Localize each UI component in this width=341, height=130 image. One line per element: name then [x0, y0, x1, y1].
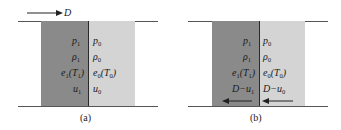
density-0-label: ρ0	[263, 52, 271, 65]
detonation-direction-arrow-icon	[27, 9, 63, 17]
channel-bottom-wall	[188, 106, 328, 107]
density-1-label: ρ1	[72, 52, 80, 65]
unburned-flow-arrow-icon	[262, 97, 293, 105]
pressure-1-label: p1	[72, 36, 80, 49]
energy-1-label: e1(T1)	[232, 68, 255, 81]
energy-0-label: e0(T0)	[263, 68, 286, 81]
velocity-0-label: u0	[93, 84, 101, 97]
relative-velocity-0-label: D−u0	[263, 84, 285, 97]
density-1-label: ρ1	[243, 52, 251, 65]
pressure-0-label: p0	[263, 36, 271, 49]
relative-velocity-1-label: D−u1	[232, 84, 254, 97]
burned-flow-arrow-icon	[222, 97, 252, 105]
energy-0-label: e0(T0)	[93, 68, 116, 81]
detonation-front-line	[88, 21, 89, 106]
detonation-front-line	[259, 21, 260, 106]
panel-b-wave-frame: p1 ρ1 e1(T1) D−u1 p0 ρ0 e0(T0) D−u0 (b)	[170, 0, 341, 130]
pressure-0-label: p0	[93, 36, 101, 49]
pressure-1-label: p1	[243, 36, 251, 49]
detonation-speed-label: D	[64, 8, 71, 18]
channel-bottom-wall	[18, 106, 158, 107]
density-0-label: ρ0	[93, 52, 101, 65]
energy-1-label: e1(T1)	[61, 68, 84, 81]
panel-b-caption: (b)	[250, 113, 262, 123]
panel-a-caption: (a)	[80, 113, 91, 123]
velocity-1-label: u1	[73, 84, 81, 97]
panel-a-lab-frame: D p1 ρ1 e1(T1) u1 p0 ρ0 e0(T0) u0 (a)	[0, 0, 170, 130]
